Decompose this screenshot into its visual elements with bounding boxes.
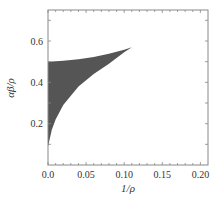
feasible-region: [48, 47, 132, 146]
x-tick-label: 0.20: [192, 169, 210, 180]
chart: 0.00.050.100.150.20 0.20.40.6 1/ρ αβ/ρ: [0, 0, 218, 201]
x-tick-label: 0.10: [115, 169, 133, 180]
x-tick-label: 0.15: [154, 169, 172, 180]
x-tick-label: 0.0: [42, 169, 55, 180]
x-tick-label: 0.05: [77, 169, 95, 180]
x-axis-label: 1/ρ: [121, 182, 135, 194]
y-tick-label: 0.6: [31, 36, 44, 47]
y-tick-label: 0.2: [31, 118, 44, 129]
plot-area: [48, 47, 132, 146]
y-axis-label: αβ/ρ: [4, 78, 16, 98]
y-tick-label: 0.4: [31, 77, 44, 88]
